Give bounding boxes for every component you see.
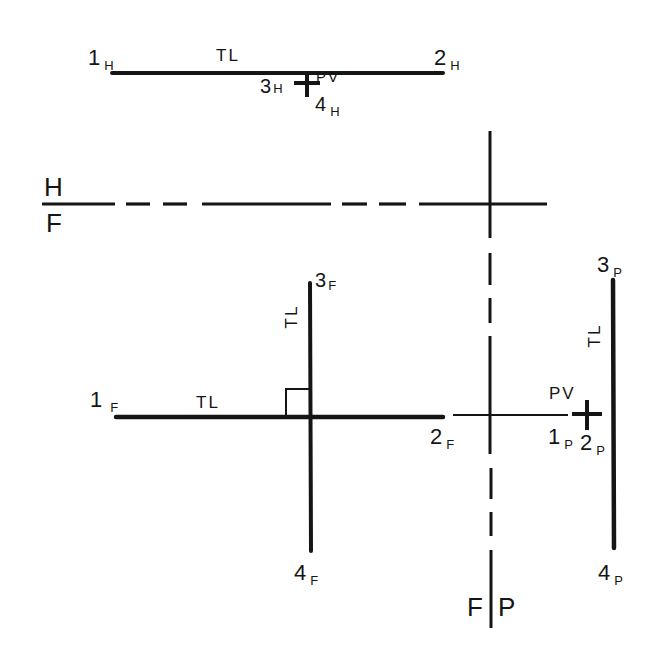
fold-line-fp xyxy=(490,131,491,628)
label-pv-p: PV xyxy=(549,385,576,402)
fold-label-h: H xyxy=(44,174,63,200)
label-1h: 1H xyxy=(88,47,114,69)
point-view-cross-p xyxy=(572,400,602,430)
fold-label-f-left: F xyxy=(467,594,483,620)
label-tl-p-vertical: TL xyxy=(586,324,603,348)
label-1p: 1P xyxy=(548,426,573,448)
right-angle-marker xyxy=(286,389,309,416)
label-3f: 3F xyxy=(315,270,336,290)
label-2f: 2F xyxy=(430,426,454,448)
label-2p: 2P xyxy=(580,432,605,454)
label-tl-f-horizontal: TL xyxy=(196,394,220,411)
label-4p: 4P xyxy=(598,562,623,584)
line-3f-4f xyxy=(310,283,311,551)
label-4f: 4F xyxy=(294,562,318,584)
label-3h: 3H xyxy=(260,76,283,96)
label-2h: 2H xyxy=(434,47,460,69)
label-3p: 3P xyxy=(597,254,622,276)
line-3p-4p xyxy=(613,280,614,548)
fold-label-f: F xyxy=(46,210,62,236)
label-tl-f-vertical: TL xyxy=(283,305,300,329)
label-4h: 4H xyxy=(315,94,340,114)
fold-label-p-right: P xyxy=(498,594,515,620)
label-1f: 1F xyxy=(90,389,118,411)
label-tl-h: TL xyxy=(216,47,240,64)
label-pv-h: PV xyxy=(316,69,340,84)
